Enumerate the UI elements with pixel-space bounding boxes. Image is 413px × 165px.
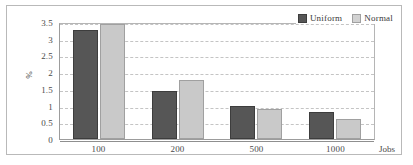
bar-normal-500[interactable] — [257, 109, 282, 139]
bar-group — [296, 24, 375, 139]
x-axis-tick-label: 1000 — [296, 140, 375, 158]
x-axis: 1002005001000 — [59, 140, 375, 158]
bar-normal-100[interactable] — [100, 24, 125, 139]
uniform-swatch-icon — [298, 14, 307, 23]
bar-group-bars — [139, 24, 218, 139]
normal-swatch-icon — [352, 14, 361, 23]
bar-groups — [60, 24, 374, 139]
x-axis-tick-label: 500 — [217, 140, 296, 158]
bar-group-bars — [60, 24, 139, 139]
y-axis-tick-label: 0 — [48, 135, 53, 145]
x-axis-tick-label: 100 — [59, 140, 138, 158]
x-axis-title: Jobs — [379, 140, 413, 158]
legend-item-label: Normal — [364, 13, 393, 23]
bar-uniform-200[interactable] — [152, 91, 177, 139]
bar-group-bars — [217, 24, 296, 139]
bar-uniform-500[interactable] — [230, 106, 255, 139]
bar-normal-1000[interactable] — [336, 119, 361, 139]
chart-legend: UniformNormal — [296, 12, 395, 24]
y-axis-tick-label: 0.5 — [41, 118, 53, 128]
bar-group — [217, 24, 296, 139]
legend-item-uniform[interactable]: Uniform — [298, 13, 342, 23]
bar-group-bars — [296, 24, 375, 139]
x-axis-tick-label: 200 — [138, 140, 217, 158]
bar-normal-200[interactable] — [179, 80, 204, 139]
bar-group — [139, 24, 218, 139]
y-axis-tick-label: 1.5 — [41, 85, 53, 95]
bar-group — [60, 24, 139, 139]
chart-figure: 00.511.522.533.5 % 1002005001000 Jobs Un… — [6, 5, 402, 155]
bar-uniform-100[interactable] — [73, 30, 98, 139]
y-axis-tick-label: 3.5 — [41, 18, 53, 28]
y-axis-tick-label: 1 — [48, 102, 53, 112]
bar-uniform-1000[interactable] — [309, 112, 334, 139]
plot-area — [59, 23, 375, 140]
legend-item-label: Uniform — [310, 13, 342, 23]
y-axis-tick-label: 2.5 — [41, 51, 53, 61]
y-axis-title: % — [24, 71, 34, 79]
y-axis-tick-label: 3 — [48, 35, 53, 45]
legend-item-normal[interactable]: Normal — [352, 13, 393, 23]
y-axis-tick-label: 2 — [48, 68, 53, 78]
